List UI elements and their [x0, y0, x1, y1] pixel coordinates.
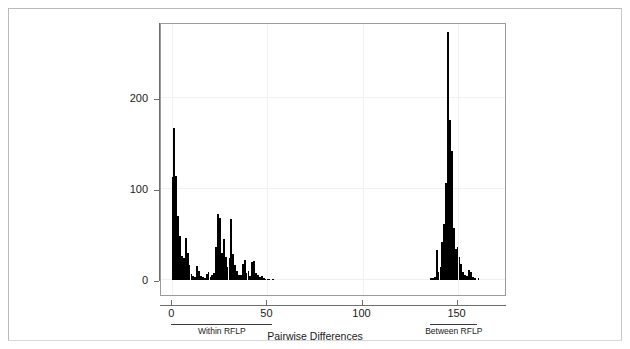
- x-axis-line: [160, 305, 506, 306]
- figure-container: 0100200 050100150 Within RFLPBetween RFL…: [0, 0, 630, 349]
- gridline-horizontal: [161, 97, 505, 98]
- plot-area: [161, 24, 505, 295]
- x-axis-tick: [457, 300, 458, 305]
- histogram-bar: [474, 278, 476, 280]
- x-axis-title: Pairwise Differences: [0, 330, 630, 342]
- y-axis-line: [159, 23, 160, 281]
- gridline-vertical: [363, 24, 364, 295]
- group-bracket-rule: [171, 324, 272, 325]
- gridline-horizontal: [161, 188, 505, 189]
- histogram-bar: [268, 279, 270, 280]
- y-axis-tick: [154, 190, 159, 191]
- x-axis-tick: [266, 300, 267, 305]
- histogram-bar: [478, 278, 480, 280]
- x-axis-tick-label: 100: [352, 307, 370, 319]
- y-axis-tick: [154, 281, 159, 282]
- group-bracket-rule: [430, 324, 478, 325]
- x-axis-tick-label: 50: [260, 307, 272, 319]
- y-axis-tick-label: 100: [0, 184, 148, 195]
- x-axis-tick-label: 150: [447, 307, 465, 319]
- y-axis-tick: [154, 99, 159, 100]
- gridline-vertical: [267, 24, 268, 295]
- y-axis-tick-label: 0: [0, 275, 148, 286]
- x-axis-tick-label: 0: [168, 307, 174, 319]
- x-axis-tick: [362, 300, 363, 305]
- plot-panel: [160, 23, 506, 296]
- x-axis-tick: [171, 300, 172, 305]
- y-axis-tick-label: 200: [0, 93, 148, 104]
- histogram-bar: [272, 279, 274, 280]
